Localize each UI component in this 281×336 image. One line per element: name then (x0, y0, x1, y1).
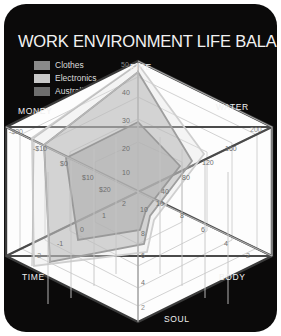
tick-time-0: 0 (80, 226, 84, 233)
axis-label-body: BODY (219, 272, 246, 282)
tick-water-200: 200 (250, 126, 262, 133)
tick-time-2: 2 (122, 200, 126, 207)
tick-body-10: 10 (156, 200, 164, 207)
tick-body-8: 8 (180, 212, 184, 219)
axis-label-soul: SOUL (164, 314, 190, 324)
tick-fire-20: 20 (122, 145, 130, 152)
tick-money-neg20: -$20 (9, 128, 23, 135)
tick-soul-8: 8 (141, 230, 145, 237)
tick-money-10: $10 (82, 174, 94, 181)
tick-fire-40: 40 (122, 89, 130, 96)
axis-label-water: WATER (216, 102, 249, 112)
tick-soul-6: 6 (141, 252, 145, 259)
tick-fire-50: 50 (121, 61, 129, 68)
axis-label-money: MONEY (18, 106, 52, 116)
tick-water-40: 40 (161, 188, 169, 195)
tick-soul-4: 4 (141, 279, 145, 286)
axis-label-fire: FIRE (130, 62, 152, 72)
chart-panel: WORK ENVIRONMENT LIFE BALANCE Clothes El… (4, 4, 277, 332)
tick-body-6: 6 (201, 226, 205, 233)
tick-body-2: 2 (246, 252, 250, 259)
tick-water-160: 160 (225, 145, 237, 152)
tick-body-4: 4 (224, 240, 228, 247)
tick-money-neg10: -$10 (33, 145, 47, 152)
tick-fire-30: 30 (122, 117, 130, 124)
tick-money-0: $0 (60, 160, 68, 167)
axis-label-time: TIME (22, 272, 45, 282)
tick-water-120: 120 (202, 159, 214, 166)
tick-time-neg2: -2 (35, 252, 41, 259)
tick-soul-10: 10 (140, 206, 148, 213)
tick-time-neg1: -1 (57, 240, 63, 247)
tick-soul-2: 2 (141, 304, 145, 311)
tick-money-20: $20 (99, 186, 111, 193)
tick-time-1: 1 (102, 212, 106, 219)
tick-water-80: 80 (182, 174, 190, 181)
tick-fire-10: 10 (122, 169, 130, 176)
